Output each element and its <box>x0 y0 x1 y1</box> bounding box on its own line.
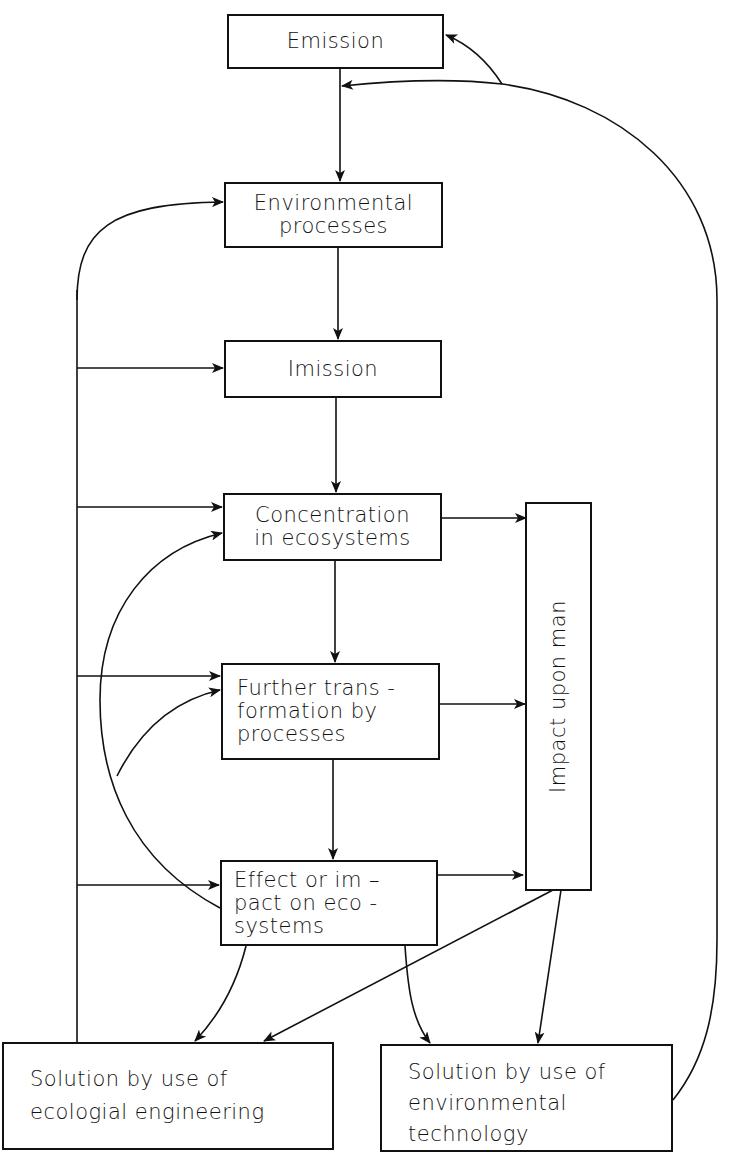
arrow-impact-to-env-tech <box>538 890 561 1043</box>
node-eco-eng-line-2: ecologial engineering <box>30 1101 265 1124</box>
node-concentration-line-1: Concentration <box>255 504 410 527</box>
node-imission-label: Imission <box>288 358 378 381</box>
node-concentration: Concentration in ecosystems <box>223 493 442 561</box>
node-env-tech-line-1: Solution by use of <box>408 1061 606 1084</box>
node-impact-upon-man: Impact upon man <box>525 502 592 891</box>
node-environmental-processes: Environmental processes <box>224 182 443 248</box>
node-effect-line-1: Effect or im – <box>234 869 380 892</box>
node-solution-ecological-engineering: Solution by use of ecologial engineering <box>2 1042 334 1150</box>
node-effect-line-2: pact on eco - <box>234 892 378 915</box>
node-impact-label: Impact upon man <box>547 600 570 793</box>
node-solution-environmental-technology: Solution by use of environmental technol… <box>380 1044 673 1152</box>
node-env-processes-line-1: Environmental <box>254 192 413 215</box>
node-env-tech-line-2: environmental <box>408 1092 567 1115</box>
diagram-connectors <box>0 0 729 1168</box>
node-emission-label: Emission <box>287 30 384 53</box>
node-effect-on-ecosystems: Effect or im – pact on eco - systems <box>220 860 438 946</box>
arrow-effect-to-concentration <box>100 533 222 908</box>
node-effect-line-3: systems <box>234 915 324 938</box>
arrow-effect-to-eco-eng <box>195 946 246 1041</box>
node-further-line-1: Further trans - <box>237 677 395 700</box>
node-env-tech-line-3: technology <box>408 1123 529 1146</box>
node-env-processes-line-2: processes <box>279 215 388 238</box>
arrow-effect-to-further <box>117 690 220 776</box>
node-further-transformation: Further trans - formation by processes <box>221 663 440 760</box>
node-emission: Emission <box>227 14 444 69</box>
node-imission: Imission <box>224 340 442 398</box>
node-eco-eng-line-1: Solution by use of <box>30 1068 228 1091</box>
arrow-loop-to-emission <box>446 35 502 84</box>
node-further-line-3: processes <box>237 723 346 746</box>
node-further-line-2: formation by <box>237 700 378 723</box>
node-concentration-line-2: in ecosystems <box>254 527 411 550</box>
arrow-eco-to-env-processes <box>77 202 223 300</box>
